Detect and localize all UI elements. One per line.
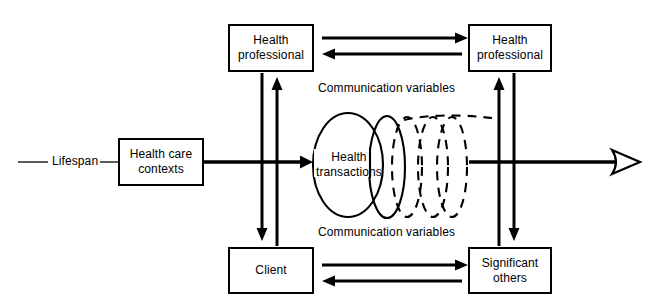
node-label: Significant others xyxy=(479,256,541,286)
communication-variables-top-label: Communication variables xyxy=(318,81,455,95)
node-label: Health professional xyxy=(474,33,546,63)
main-axis-arrowhead xyxy=(300,156,313,169)
node-label: Health care contexts xyxy=(127,147,195,177)
bottom-arrow-right-head xyxy=(455,260,468,271)
node-health-professional-right: Health professional xyxy=(468,24,552,72)
right-arrow-up-head xyxy=(494,77,505,90)
right-arrow-down-head xyxy=(509,228,520,241)
node-label: Health professional xyxy=(235,33,307,63)
lifespan-label: Lifespan xyxy=(50,155,100,168)
left-arrow-down-head xyxy=(257,228,268,241)
node-health-professional-left: Health professional xyxy=(228,24,314,72)
helix-loop-dashed-3 xyxy=(437,117,467,217)
top-arrow-right-head xyxy=(455,33,468,44)
node-significant-others: Significant others xyxy=(468,247,552,294)
axis-terminal-arrowhead xyxy=(612,150,640,174)
node-health-care-contexts: Health care contexts xyxy=(118,138,204,186)
left-arrow-up-head xyxy=(272,77,283,90)
health-transactions-label: Health transactions xyxy=(313,150,385,180)
health-communication-diagram: Health professional Health professional … xyxy=(0,0,651,307)
node-label: Client xyxy=(252,263,289,278)
node-client: Client xyxy=(228,247,314,294)
helix-loop-dashed-1 xyxy=(392,117,422,217)
bottom-arrow-left-head xyxy=(322,276,335,287)
top-arrow-left-head xyxy=(322,49,335,60)
communication-variables-bottom-label: Communication variables xyxy=(318,225,455,239)
